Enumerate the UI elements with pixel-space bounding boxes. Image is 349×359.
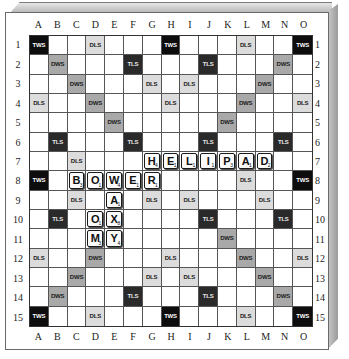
board-square-A5[interactable] — [30, 113, 49, 132]
board-square-L9[interactable] — [237, 191, 256, 210]
board-square-I6[interactable] — [180, 133, 199, 152]
board-square-O13[interactable] — [293, 268, 312, 287]
board-square-L10[interactable] — [237, 210, 256, 229]
board-square-J15[interactable] — [199, 307, 218, 326]
board-square-E11[interactable]: Y4 — [105, 229, 124, 248]
board-square-M3[interactable]: DWS — [256, 75, 275, 94]
board-square-H5[interactable] — [162, 113, 181, 132]
board-square-I3[interactable]: DLS — [180, 75, 199, 94]
board-square-M10[interactable] — [256, 210, 275, 229]
board-square-I1[interactable] — [180, 36, 199, 55]
board-square-C7[interactable]: DLS — [68, 152, 87, 171]
board-square-H15[interactable]: TWS — [162, 307, 181, 326]
board-square-G10[interactable] — [143, 210, 162, 229]
board-square-H10[interactable] — [162, 210, 181, 229]
board-square-B15[interactable] — [49, 307, 68, 326]
board-square-B7[interactable] — [49, 152, 68, 171]
board-square-N10[interactable]: TLS — [274, 210, 293, 229]
board-square-M13[interactable]: DWS — [256, 268, 275, 287]
board-square-D12[interactable]: DWS — [86, 249, 105, 268]
board-square-H4[interactable]: DLS — [162, 94, 181, 113]
board-square-I11[interactable] — [180, 229, 199, 248]
board-square-H11[interactable] — [162, 229, 181, 248]
board-square-H6[interactable] — [162, 133, 181, 152]
board-square-K15[interactable] — [218, 307, 237, 326]
board-square-O5[interactable] — [293, 113, 312, 132]
board-square-K7[interactable]: P3 — [218, 152, 237, 171]
board-square-G4[interactable] — [143, 94, 162, 113]
board-square-J10[interactable]: TLS — [199, 210, 218, 229]
board-square-B12[interactable] — [49, 249, 68, 268]
board-square-H7[interactable]: E1 — [162, 152, 181, 171]
board-square-F10[interactable] — [124, 210, 143, 229]
board-square-D5[interactable] — [86, 113, 105, 132]
board-square-B11[interactable] — [49, 229, 68, 248]
letter-tile[interactable]: O1 — [87, 211, 103, 227]
board-square-A9[interactable] — [30, 191, 49, 210]
board-square-B3[interactable] — [49, 75, 68, 94]
board-square-E7[interactable] — [105, 152, 124, 171]
board-square-I8[interactable] — [180, 171, 199, 190]
board-square-J6[interactable]: TLS — [199, 133, 218, 152]
board-square-A12[interactable]: DLS — [30, 249, 49, 268]
letter-tile[interactable]: M3 — [87, 230, 103, 246]
board-square-K11[interactable]: DWS — [218, 229, 237, 248]
board-square-I4[interactable] — [180, 94, 199, 113]
board-square-K10[interactable] — [218, 210, 237, 229]
board-square-G1[interactable] — [143, 36, 162, 55]
board-square-H9[interactable] — [162, 191, 181, 210]
board-square-C11[interactable] — [68, 229, 87, 248]
board-square-G14[interactable] — [143, 287, 162, 306]
board-square-L8[interactable]: DLS — [237, 171, 256, 190]
board-square-D2[interactable] — [86, 55, 105, 74]
letter-tile[interactable]: I1 — [200, 153, 216, 169]
board-square-A3[interactable] — [30, 75, 49, 94]
board-square-H14[interactable] — [162, 287, 181, 306]
board-square-J4[interactable] — [199, 94, 218, 113]
board-square-F12[interactable] — [124, 249, 143, 268]
board-square-M11[interactable] — [256, 229, 275, 248]
board-square-M6[interactable] — [256, 133, 275, 152]
board-square-O10[interactable] — [293, 210, 312, 229]
board-square-D13[interactable] — [86, 268, 105, 287]
board-square-C14[interactable] — [68, 287, 87, 306]
board-square-F15[interactable] — [124, 307, 143, 326]
board-square-J1[interactable] — [199, 36, 218, 55]
board-square-G11[interactable] — [143, 229, 162, 248]
board-square-I2[interactable] — [180, 55, 199, 74]
board-square-D11[interactable]: M3 — [86, 229, 105, 248]
board-square-F11[interactable] — [124, 229, 143, 248]
board-square-L12[interactable]: DWS — [237, 249, 256, 268]
board-square-C4[interactable] — [68, 94, 87, 113]
board-square-A2[interactable] — [30, 55, 49, 74]
board-square-L3[interactable] — [237, 75, 256, 94]
board-square-E5[interactable]: DWS — [105, 113, 124, 132]
board-square-J13[interactable] — [199, 268, 218, 287]
board-square-N11[interactable] — [274, 229, 293, 248]
board-square-O14[interactable] — [293, 287, 312, 306]
board-square-H1[interactable]: TWS — [162, 36, 181, 55]
board-square-G3[interactable]: DLS — [143, 75, 162, 94]
board-square-K5[interactable]: DWS — [218, 113, 237, 132]
board-square-E1[interactable] — [105, 36, 124, 55]
board-square-D4[interactable]: DWS — [86, 94, 105, 113]
board-square-N8[interactable] — [274, 171, 293, 190]
board-square-J14[interactable]: TLS — [199, 287, 218, 306]
board-square-E8[interactable]: W4 — [105, 171, 124, 190]
board-square-L13[interactable] — [237, 268, 256, 287]
board-square-I14[interactable] — [180, 287, 199, 306]
board-square-C8[interactable]: B3 — [68, 171, 87, 190]
board-square-N2[interactable]: DWS — [274, 55, 293, 74]
board-square-A7[interactable] — [30, 152, 49, 171]
board-square-O9[interactable] — [293, 191, 312, 210]
board-square-A1[interactable]: TWS — [30, 36, 49, 55]
board-square-I7[interactable]: L1 — [180, 152, 199, 171]
board-square-D8[interactable]: O1 — [86, 171, 105, 190]
letter-tile[interactable]: A1 — [106, 192, 122, 208]
board-square-F7[interactable] — [124, 152, 143, 171]
board-square-K4[interactable] — [218, 94, 237, 113]
board-square-D10[interactable]: O1 — [86, 210, 105, 229]
board-square-J8[interactable] — [199, 171, 218, 190]
board-square-B6[interactable]: TLS — [49, 133, 68, 152]
board-square-C12[interactable] — [68, 249, 87, 268]
